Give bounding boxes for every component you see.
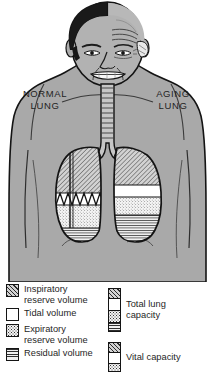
legend-label-total-lung-capacity: Total lung capacity (121, 299, 166, 320)
legend-column-volumes: Inspiratory reserve volume Tidal volume … (6, 284, 110, 364)
legend: Inspiratory reserve volume Tidal volume … (0, 284, 215, 382)
legend-item-residual-volume: Residual volume (6, 348, 110, 361)
legend-label-tidal-volume: Tidal volume (19, 308, 76, 319)
figure-root: NORMAL LUNG AGING LUNG Inspiratory reser… (0, 0, 215, 382)
tlc-segment-tidal-volume (109, 299, 120, 311)
swatch-residual-volume (6, 348, 19, 361)
swatch-vital-capacity (108, 342, 121, 372)
vc-segment-tidal-volume (109, 353, 120, 363)
aging-expiratory-reserve-volume (110, 197, 168, 215)
tlc-segment-inspiratory-reserve-volume (109, 289, 120, 299)
legend-label-vital-capacity: Vital capacity (121, 352, 181, 363)
swatch-inspiratory-reserve-volume (6, 284, 19, 297)
legend-label-residual-volume: Residual volume (19, 348, 93, 359)
vc-segment-expiratory-reserve-volume (109, 364, 120, 371)
legend-column-capacities: Total lung capacity Vital capacity (108, 284, 215, 375)
legend-item-tidal-volume: Tidal volume (6, 308, 110, 321)
legend-label-expiratory-reserve-volume: Expiratory reserve volume (19, 324, 88, 345)
legend-item-expiratory-reserve-volume: Expiratory reserve volume (6, 324, 110, 345)
legend-item-total-lung-capacity: Total lung capacity (108, 288, 215, 332)
anatomical-illustration (0, 0, 215, 282)
tlc-segment-residual-volume (109, 323, 120, 331)
aging-tidal-volume (110, 185, 168, 197)
legend-item-vital-capacity: Vital capacity (108, 342, 215, 372)
legend-item-inspiratory-reserve-volume: Inspiratory reserve volume (6, 284, 110, 305)
swatch-tidal-volume (6, 308, 19, 321)
legend-label-inspiratory-reserve-volume: Inspiratory reserve volume (19, 284, 88, 305)
tlc-segment-expiratory-reserve-volume (109, 311, 120, 322)
swatch-total-lung-capacity (108, 288, 121, 332)
swatch-expiratory-reserve-volume (6, 324, 19, 337)
vc-segment-inspiratory-reserve-volume (109, 343, 120, 353)
